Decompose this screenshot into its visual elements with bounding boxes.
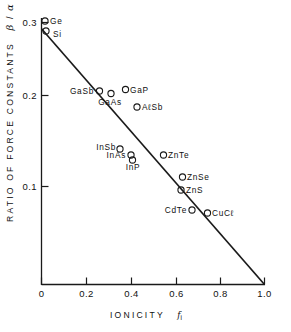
data-label-inp: InP xyxy=(126,162,141,172)
data-label-gap: GaP xyxy=(130,85,149,95)
svg-text:IONICITY fi: IONICITY fi xyxy=(110,310,182,321)
data-point-cdte xyxy=(189,207,195,213)
scatter-plot: 0.3 0.2 0.1 0 0.2 0.4 0.6 0.8 1.0 IONICI… xyxy=(0,0,291,332)
x-tick-label-4: 0.8 xyxy=(213,288,227,299)
x-axis-title-subscript: i xyxy=(180,314,181,321)
x-tick-label-2: 0.4 xyxy=(124,288,138,299)
data-point-znte xyxy=(160,152,166,158)
y-ticks xyxy=(42,23,49,187)
y-axis-title: RATIO OF FORCE CONSTANTS β / α xyxy=(4,4,15,222)
x-ticks xyxy=(42,278,265,285)
y-axis-title-slash: / xyxy=(5,16,15,19)
svg-text:RATIO OF FORCE CONSTANTS: RATIO OF FORCE CONSTANTS β / α xyxy=(4,4,15,222)
x-tick-label-3: 0.6 xyxy=(169,288,183,299)
data-label-cdte: CdTe xyxy=(165,205,187,215)
trendline xyxy=(42,29,265,285)
y-tick-label-2: 0.1 xyxy=(23,181,37,192)
y-tick-label-0: 0.3 xyxy=(23,17,37,28)
axes xyxy=(42,18,266,285)
data-label-znte: ZnTe xyxy=(168,150,189,160)
data-label-gaas: GaAs xyxy=(98,97,122,107)
data-label-zns: ZnS xyxy=(186,185,203,195)
y-tick-label-1: 0.2 xyxy=(23,90,37,101)
x-tick-labels: 0 0.2 0.4 0.6 0.8 1.0 xyxy=(39,288,272,299)
y-axis-title-alpha: α xyxy=(4,4,15,11)
data-point-znse xyxy=(179,174,185,180)
data-label-inas: InAs xyxy=(107,150,126,160)
data-point-gasb xyxy=(96,88,102,94)
y-axis-title-main: RATIO OF FORCE CONSTANTS xyxy=(5,42,15,222)
data-point-gaas xyxy=(108,90,114,96)
data-label-cucl: CuCℓ xyxy=(212,208,234,218)
y-axis-title-beta: β xyxy=(4,24,15,31)
data-point-labels: Ge Si GaSb GaAs GaP AℓSb InSb InAs InP Z… xyxy=(50,16,234,218)
data-point-gap xyxy=(122,86,128,92)
x-axis-title-main: IONICITY xyxy=(110,310,165,320)
y-tick-labels: 0.3 0.2 0.1 xyxy=(23,17,37,192)
figure: 0.3 0.2 0.1 0 0.2 0.4 0.6 0.8 1.0 IONICI… xyxy=(0,0,291,332)
data-point-cucl xyxy=(204,210,210,216)
data-label-ge: Ge xyxy=(50,16,62,26)
data-label-alsb: AℓSb xyxy=(142,102,163,112)
data-label-znse: ZnSe xyxy=(187,172,210,182)
data-label-gasb: GaSb xyxy=(70,86,94,96)
x-axis-title: IONICITY fi xyxy=(110,310,182,321)
data-label-si: Si xyxy=(53,29,62,39)
x-tick-label-1: 0.2 xyxy=(79,288,93,299)
x-tick-label-5: 1.0 xyxy=(257,288,271,299)
data-point-alsb xyxy=(134,104,140,110)
x-tick-label-0: 0 xyxy=(39,288,45,299)
data-point-ge xyxy=(42,18,48,24)
